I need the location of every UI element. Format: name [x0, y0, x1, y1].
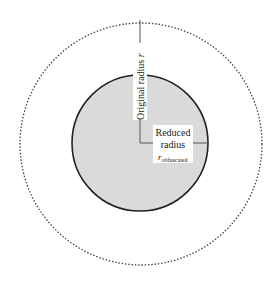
radius-diagram: Original radius r Reduced radius robfusc…	[0, 0, 277, 284]
reduced-label-line2: radius	[161, 139, 186, 150]
reduced-label-line1: Reduced	[156, 127, 191, 138]
original-radius-label: Original radius r	[135, 53, 146, 120]
